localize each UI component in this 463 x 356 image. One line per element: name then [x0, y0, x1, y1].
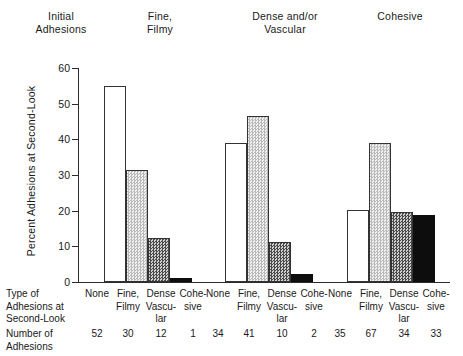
count-g1-none: 52 — [82, 328, 112, 341]
bar-group2-dense-vascular — [269, 242, 291, 282]
cat-label-g2-none: None — [203, 288, 233, 301]
count-g2-none: 34 — [203, 328, 233, 341]
count-g3-fine: 67 — [355, 328, 387, 341]
y-tick-label-50: 50 — [44, 98, 70, 110]
cat-label-g1-none: None — [82, 288, 112, 301]
count-g3-cohesive: 33 — [421, 328, 451, 341]
bar-group2-fine-filmy — [247, 116, 269, 282]
y-tick-label-10: 10 — [44, 240, 70, 252]
y-tick-label-40: 40 — [44, 133, 70, 145]
bar-group1-dense-vascular — [148, 238, 170, 282]
cat-label-g3-none: None — [325, 288, 355, 301]
cat-label-g2-fine: Fine, Filmy — [233, 288, 265, 313]
bar-group1-none — [104, 86, 126, 282]
count-g2-dense: 10 — [265, 328, 299, 341]
cat-label-g3-fine: Fine, Filmy — [355, 288, 387, 313]
bars-layer — [78, 68, 450, 282]
bar-group1-fine-filmy — [126, 170, 148, 282]
bar-group3-cohesive — [413, 215, 435, 282]
x-axis-line — [78, 282, 450, 283]
count-g1-fine: 30 — [112, 328, 144, 341]
count-g2-fine: 41 — [233, 328, 265, 341]
row-label-number-of-adhesions: Number of Adhesions — [6, 328, 80, 353]
bar-group3-none — [347, 210, 369, 282]
bar-group1-cohesive — [170, 278, 192, 282]
count-g3-dense: 34 — [387, 328, 421, 341]
y-tick-label-60: 60 — [44, 62, 70, 74]
bar-group2-cohesive — [291, 274, 313, 282]
cat-label-g2-dense: Dense Vascu- lar — [265, 288, 299, 326]
bar-group2-none — [225, 143, 247, 282]
count-g1-dense: 12 — [144, 328, 178, 341]
cat-label-g1-fine: Fine, Filmy — [112, 288, 144, 313]
y-tick-0 — [72, 282, 79, 283]
bar-group3-dense-vascular — [391, 212, 413, 282]
y-tick-label-20: 20 — [44, 205, 70, 217]
cat-label-g1-dense: Dense Vascu- lar — [144, 288, 178, 326]
bottom-data-table: Type of Adhesions at Second-Look Number … — [0, 288, 463, 356]
y-tick-label-0: 0 — [44, 276, 70, 288]
cat-label-g3-cohesive: Cohe- sive — [421, 288, 451, 313]
row-label-type-of-adhesions: Type of Adhesions at Second-Look — [6, 288, 80, 326]
y-axis-title: Percent Adhesions at Second-Look — [25, 64, 37, 279]
count-g3-none: 35 — [325, 328, 355, 341]
bar-group3-fine-filmy — [369, 143, 391, 282]
y-tick-label-30: 30 — [44, 169, 70, 181]
cat-label-g3-dense: Dense Vascu- lar — [387, 288, 421, 326]
